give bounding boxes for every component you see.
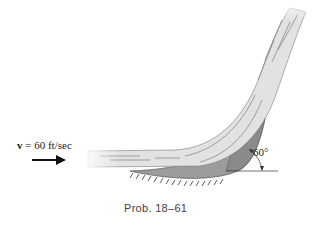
water-jet [80,0,318,170]
problem-figure [0,0,318,229]
figure-caption: Prob. 18–61 [124,202,187,214]
velocity-arrow [32,155,66,165]
velocity-value: = 60 ft/sec [23,139,72,151]
velocity-label: v = 60 ft/sec [17,139,72,151]
angle-label: 60° [253,146,268,158]
